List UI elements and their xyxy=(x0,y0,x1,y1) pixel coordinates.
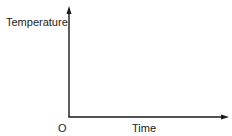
y-axis-arrowhead-icon xyxy=(67,6,72,14)
origin-label: O xyxy=(58,123,67,134)
x-axis-arrowhead-icon xyxy=(221,115,229,120)
y-axis-label: Temperature xyxy=(6,17,68,28)
axes-diagram: Temperature O Time xyxy=(0,0,232,136)
x-axis-label: Time xyxy=(132,123,156,134)
